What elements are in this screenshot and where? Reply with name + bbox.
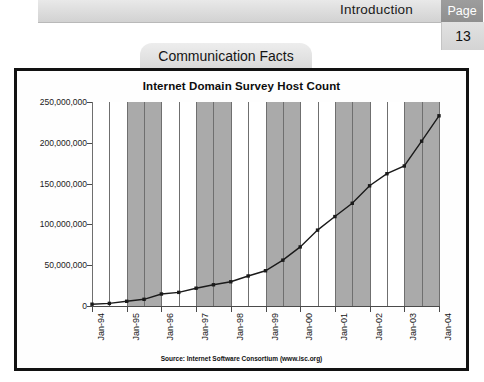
series-marker [299,245,302,248]
series-line [92,116,439,304]
series-marker [437,114,440,117]
section-title: Introduction [340,2,413,17]
x-axis-tick-label: Jan-96 [165,313,175,341]
x-axis-tick [300,307,301,312]
x-axis-tick [92,307,93,312]
data-series [92,102,439,306]
y-axis-tick-label: 150,000,000 [40,179,87,189]
series-marker [420,139,423,142]
y-axis-tick-label: 100,000,000 [40,219,87,229]
source-note: Source: Internet Software Consortium (ww… [17,355,466,362]
x-axis-tick [266,307,267,312]
series-marker [281,258,284,261]
series-marker [333,215,336,218]
x-axis-tick-label: Jan-99 [270,313,280,341]
page-number: 13 [441,22,484,50]
series-marker [368,184,371,187]
series-marker [160,292,163,295]
y-axis-tick-label: 200,000,000 [40,138,87,148]
gridline [439,102,440,306]
x-axis-tick-label: Jan-03 [408,313,418,341]
x-axis-tick [231,307,232,312]
x-axis-tick [196,307,197,312]
x-axis-tick [439,307,440,312]
section-tab-communication-facts: Communication Facts [140,43,312,68]
series-marker [246,274,249,277]
x-axis-tick [161,307,162,312]
series-marker [264,269,267,272]
x-axis-tick-label: Jan-95 [131,313,141,341]
x-axis-tick [404,307,405,312]
x-axis-tick [127,307,128,312]
series-marker [403,164,406,167]
series-marker [229,280,232,283]
page-header: Introduction Page 13 [0,0,483,36]
x-axis-tick-label: Jan-02 [374,313,384,341]
x-axis-tick-label: Jan-97 [200,313,210,341]
x-axis-tick-label: Jan-94 [96,313,106,341]
y-axis-tick-label: 250,000,000 [40,97,87,107]
series-marker [177,291,180,294]
series-marker [351,202,354,205]
x-axis-tick-label: Jan-04 [443,313,453,341]
x-axis-labels: Jan-94Jan-95Jan-96Jan-97Jan-98Jan-99Jan-… [92,313,440,359]
x-axis-tick-label: Jan-00 [304,313,314,341]
series-marker [108,302,111,305]
x-axis-tick [370,307,371,312]
section-tab-label: Communication Facts [158,48,293,64]
y-axis-labels: 050,000,000100,000,000150,000,000200,000… [17,102,87,306]
page-label: Page [441,0,483,22]
chart-title: Internet Domain Survey Host Count [17,80,466,92]
plot-area [92,102,439,306]
chart-figure: Internet Domain Survey Host Count 050,00… [14,68,469,371]
series-marker [385,172,388,175]
series-marker [142,298,145,301]
x-axis-tick-label: Jan-98 [235,313,245,341]
x-axis-tick-label: Jan-01 [339,313,349,341]
series-marker [194,287,197,290]
series-marker [212,283,215,286]
series-marker [316,228,319,231]
series-marker [125,300,128,303]
chart-figure-inner: Internet Domain Survey Host Count 050,00… [17,71,466,368]
y-axis-tick-label: 50,000,000 [44,260,87,270]
x-axis-tick [335,307,336,312]
x-axis-ticks [92,307,440,312]
